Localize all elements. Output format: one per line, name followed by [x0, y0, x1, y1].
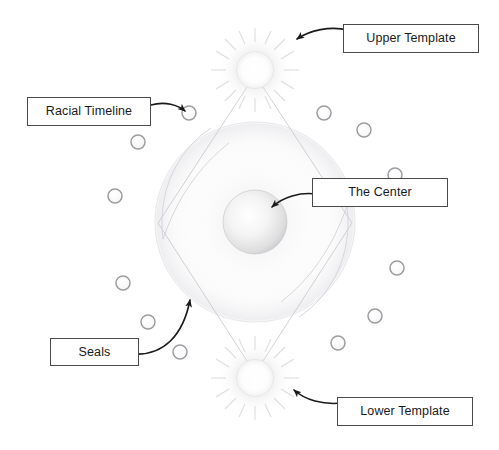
callout-seals[interactable]: Seals: [50, 338, 139, 366]
center-sphere: [223, 190, 287, 254]
seal-circle: [173, 345, 187, 359]
callout-the-center[interactable]: The Center: [312, 178, 448, 207]
seal-circle: [131, 135, 145, 149]
callout-racial-timeline[interactable]: Racial Timeline: [27, 97, 151, 126]
callout-seals-label: Seals: [79, 346, 111, 359]
seal-circle: [368, 309, 382, 323]
leader-arrow-racial-timeline: [151, 103, 185, 111]
seal-circle: [116, 276, 130, 290]
callout-lower-template[interactable]: Lower Template: [337, 397, 473, 426]
leader-arrow-lower-template: [294, 390, 342, 403]
lower-template-sphere: [211, 336, 299, 420]
seal-circle: [331, 336, 345, 350]
seal-circle: [141, 315, 155, 329]
upper-template-sphere: [211, 28, 299, 112]
callout-upper-template-label: Upper Template: [366, 32, 455, 45]
seal-circle: [390, 261, 404, 275]
seal-circle: [357, 123, 371, 137]
callout-racial-timeline-label: Racial Timeline: [46, 105, 132, 118]
callout-upper-template[interactable]: Upper Template: [343, 24, 479, 53]
seal-circle: [108, 189, 122, 203]
seal-circle: [317, 106, 331, 120]
seal-circle: [182, 106, 196, 120]
diagram-graphics: [0, 0, 499, 450]
diagram-canvas: Upper Template Racial Timeline The Cente…: [0, 0, 499, 450]
leader-arrow-upper-template: [297, 28, 348, 39]
callout-lower-template-label: Lower Template: [360, 405, 449, 418]
callout-the-center-label: The Center: [348, 186, 412, 199]
